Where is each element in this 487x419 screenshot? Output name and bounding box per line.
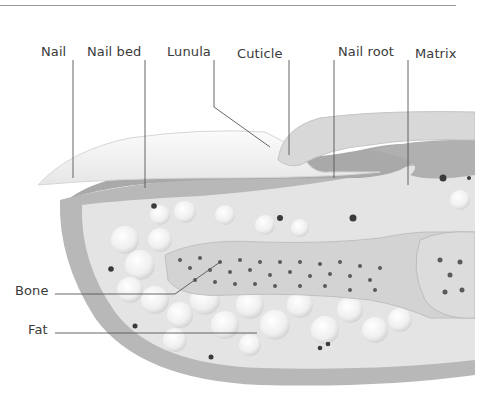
- label-lunula: Lunula: [167, 44, 211, 59]
- label-bone: Bone: [15, 283, 49, 298]
- label-matrix: Matrix: [415, 46, 457, 61]
- fingertip-diagram: [0, 0, 487, 419]
- label-nail-bed: Nail bed: [87, 44, 141, 59]
- label-cuticle: Cuticle: [237, 46, 282, 61]
- label-nail-root: Nail root: [338, 44, 394, 59]
- label-fat: Fat: [28, 322, 48, 337]
- label-nail: Nail: [41, 44, 66, 59]
